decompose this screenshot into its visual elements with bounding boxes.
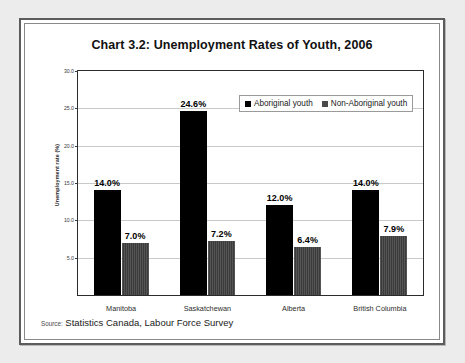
bar-value-label: 7.2%: [211, 229, 232, 239]
bar-value-label: 14.0%: [353, 178, 379, 188]
x-axis-category-label: British Columbia: [353, 304, 406, 313]
bar-aboriginal[interactable]: 12.0%: [266, 205, 293, 295]
legend-label: Aboriginal youth: [254, 99, 313, 108]
bar-group: 24.6%7.2%Saskatchewan: [164, 71, 250, 295]
x-axis-category-label: Saskatchewan: [184, 304, 231, 313]
legend-swatch-icon: [322, 101, 328, 107]
y-axis-tick-label: 30.0: [64, 68, 74, 74]
figure-outer-frame: Chart 3.2: Unemployment Rates of Youth, …: [19, 18, 445, 345]
chart-legend: Aboriginal youthNon-Aboriginal youth: [239, 95, 413, 112]
x-axis-category-label: Alberta: [282, 304, 305, 313]
bar-non-aboriginal[interactable]: 7.2%: [208, 241, 235, 295]
page-background: Chart 3.2: Unemployment Rates of Youth, …: [0, 0, 465, 363]
legend-label: Non-Aboriginal youth: [331, 99, 407, 108]
x-axis-category-label: Manitoba: [106, 304, 136, 313]
bar-non-aboriginal[interactable]: 6.4%: [294, 247, 321, 295]
legend-item[interactable]: Aboriginal youth: [245, 99, 313, 108]
bar-value-label: 7.0%: [125, 231, 146, 241]
bar-aboriginal[interactable]: 24.6%: [180, 111, 207, 295]
bar-value-label: 24.6%: [181, 99, 207, 109]
bar-group: 14.0%7.0%Manitoba: [78, 71, 164, 295]
source-text: Statistics Canada, Labour Force Survey: [65, 317, 233, 328]
y-axis-tick-label: 20.0: [64, 143, 74, 149]
bar-value-label: 12.0%: [267, 193, 293, 203]
source-note: Source: Statistics Canada, Labour Force …: [41, 317, 233, 328]
bar-value-label: 6.4%: [297, 235, 318, 245]
figure-inner-frame: Chart 3.2: Unemployment Rates of Youth, …: [24, 23, 440, 340]
bar-aboriginal[interactable]: 14.0%: [352, 190, 379, 295]
bar-non-aboriginal[interactable]: 7.0%: [122, 243, 149, 295]
legend-item[interactable]: Non-Aboriginal youth: [322, 99, 407, 108]
chart-body: Unemployment rate (%) 5.010.015.020.025.…: [25, 24, 439, 339]
bar-value-label: 14.0%: [94, 178, 120, 188]
bar-aboriginal[interactable]: 14.0%: [94, 190, 121, 295]
y-axis-tick-label: 15.0: [64, 180, 74, 186]
source-prefix-label: Source:: [41, 320, 63, 327]
y-axis-tick-label: 25.0: [64, 105, 74, 111]
bar-non-aboriginal[interactable]: 7.9%: [380, 236, 407, 295]
y-axis-tick-label: 10.0: [64, 217, 74, 223]
bar-value-label: 7.9%: [384, 224, 405, 234]
y-axis-title: Unemployment rate (%): [54, 115, 60, 235]
y-axis-tick-label: 5.0: [67, 255, 74, 261]
legend-swatch-icon: [245, 101, 251, 107]
